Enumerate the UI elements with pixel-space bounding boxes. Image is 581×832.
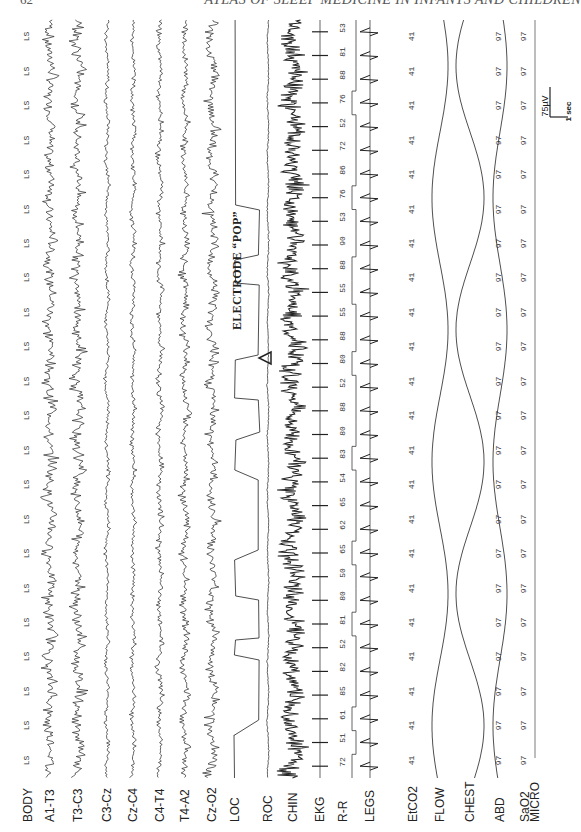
sao2-value: 97 bbox=[494, 204, 503, 214]
etco2-value: 41 bbox=[407, 687, 416, 697]
trace-loc bbox=[234, 20, 260, 778]
legs-artifact bbox=[360, 691, 378, 699]
sao2-value: 97 bbox=[519, 239, 528, 249]
rr-value: 52 bbox=[339, 115, 347, 131]
body-value: LS bbox=[22, 204, 31, 214]
trace-chin bbox=[277, 20, 310, 778]
sao2-value: 97 bbox=[494, 32, 503, 42]
legs-artifact bbox=[360, 620, 378, 628]
body-value: LS bbox=[22, 170, 31, 180]
sao2-value: 97 bbox=[519, 652, 528, 662]
sao2-value: 97 bbox=[519, 687, 528, 697]
body-value: LS bbox=[22, 687, 31, 697]
sao2-value: 97 bbox=[519, 204, 528, 214]
sao2-value: 97 bbox=[494, 445, 503, 455]
legs-artifact bbox=[360, 738, 378, 746]
legs-artifact bbox=[360, 431, 378, 439]
sao2-value: 97 bbox=[494, 687, 503, 697]
legs-artifact bbox=[360, 312, 378, 320]
sao2-value: 97 bbox=[494, 239, 503, 249]
channel-label-chin: CHIN bbox=[286, 793, 300, 822]
body-value: LS bbox=[22, 32, 31, 42]
rr-value: 55 bbox=[339, 304, 347, 320]
trace-cz-o2 bbox=[202, 20, 221, 778]
sao2-value: 97 bbox=[519, 618, 528, 628]
channel-label-t3-c3: T3-C3 bbox=[71, 789, 85, 822]
sao2-value: 97 bbox=[519, 549, 528, 559]
scale-time: 1 sec bbox=[564, 101, 573, 121]
channel-label-etco2: EtCO2 bbox=[406, 786, 420, 822]
legs-artifact bbox=[360, 596, 378, 604]
body-value: LS bbox=[22, 549, 31, 559]
legs-artifact bbox=[360, 336, 378, 344]
trace-c4-t4 bbox=[155, 20, 165, 778]
etco2-value: 41 bbox=[407, 514, 416, 524]
etco2-value: 41 bbox=[407, 411, 416, 421]
body-value: LS bbox=[22, 755, 31, 765]
legs-artifact bbox=[360, 52, 378, 60]
body-value: LS bbox=[22, 376, 31, 386]
rr-value: 51 bbox=[339, 730, 347, 746]
body-value: LS bbox=[22, 273, 31, 283]
sao2-value: 97 bbox=[494, 308, 503, 318]
sao2-value: 97 bbox=[494, 721, 503, 731]
rr-value: 80 bbox=[339, 588, 347, 604]
channel-label-abd: ABD bbox=[493, 797, 507, 822]
body-value: LS bbox=[22, 66, 31, 76]
legs-artifact bbox=[360, 241, 378, 249]
sao2-value: 97 bbox=[494, 101, 503, 111]
body-value: LS bbox=[22, 721, 31, 731]
sao2-value: 97 bbox=[519, 308, 528, 318]
scale-bar: 75µV 1 sec bbox=[540, 85, 570, 125]
trace-r-r bbox=[352, 20, 356, 778]
legs-artifact bbox=[360, 715, 378, 723]
sao2-value: 97 bbox=[494, 583, 503, 593]
legs-artifact bbox=[360, 288, 378, 296]
sao2-value: 97 bbox=[519, 170, 528, 180]
legs-artifact bbox=[360, 359, 378, 367]
sao2-value: 97 bbox=[519, 721, 528, 731]
rr-value: 88 bbox=[339, 67, 347, 83]
rr-value: 81 bbox=[339, 44, 347, 60]
etco2-value: 41 bbox=[407, 66, 416, 76]
body-value: LS bbox=[22, 101, 31, 111]
legs-artifact bbox=[360, 194, 378, 202]
legs-artifact bbox=[360, 573, 378, 581]
legs-artifact bbox=[360, 478, 378, 486]
rr-value: 88 bbox=[339, 399, 347, 415]
sao2-value: 97 bbox=[519, 376, 528, 386]
scale-amplitude: 75µV bbox=[540, 95, 550, 116]
sao2-value: 97 bbox=[519, 411, 528, 421]
rr-value: 82 bbox=[339, 659, 347, 675]
channel-label-c4-t4: C4-T4 bbox=[153, 789, 167, 822]
rr-value: 88 bbox=[339, 328, 347, 344]
etco2-value: 41 bbox=[407, 170, 416, 180]
sao2-value: 97 bbox=[519, 66, 528, 76]
channel-label-c3-cz: C3-Cz bbox=[100, 788, 114, 822]
sao2-value: 97 bbox=[519, 514, 528, 524]
rr-value: 86 bbox=[339, 162, 347, 178]
etco2-value: 41 bbox=[407, 239, 416, 249]
etco2-value: 41 bbox=[407, 583, 416, 593]
sao2-value: 97 bbox=[519, 342, 528, 352]
sao2-value: 97 bbox=[519, 480, 528, 490]
channel-label-body: BODY bbox=[21, 788, 35, 822]
channel-label-micro: MICRO bbox=[528, 782, 542, 822]
sao2-value: 97 bbox=[494, 618, 503, 628]
legs-artifact bbox=[360, 99, 378, 107]
body-value: LS bbox=[22, 514, 31, 524]
sao2-value: 97 bbox=[519, 755, 528, 765]
rr-value: 81 bbox=[339, 612, 347, 628]
legs-artifact bbox=[360, 454, 378, 462]
etco2-value: 41 bbox=[407, 549, 416, 559]
body-value: LS bbox=[22, 618, 31, 628]
electrode-pop-annotation: ELECTRODE “POP” bbox=[230, 211, 245, 330]
legs-artifact bbox=[360, 75, 378, 83]
channel-label-loc: LOC bbox=[228, 797, 242, 822]
sao2-value: 97 bbox=[494, 411, 503, 421]
body-value: LS bbox=[22, 308, 31, 318]
rr-value: 62 bbox=[339, 517, 347, 533]
rr-value: 76 bbox=[339, 186, 347, 202]
rr-value: 50 bbox=[339, 565, 347, 581]
rr-value: 85 bbox=[339, 683, 347, 699]
